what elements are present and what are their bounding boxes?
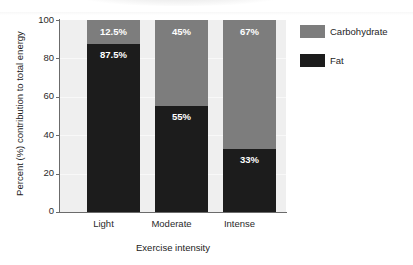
legend-swatch-carbohydrate — [300, 25, 325, 38]
bar-intense-segment-fat: 33% — [223, 149, 276, 212]
bar-light-segment-carbohydrate: 12.5% — [87, 20, 140, 44]
bar-intense: 33% 67% — [223, 20, 276, 212]
scan-shadow-artifact — [55, 0, 305, 6]
y-tick-label-60: 60 — [14, 91, 54, 101]
y-tick-label-20: 20 — [14, 168, 54, 178]
bar-light-carb-label: 12.5% — [87, 26, 140, 37]
scan-line-artifact — [0, 12, 413, 15]
x-axis-title: Exercise intensity — [60, 242, 286, 253]
bar-light: 87.5% 12.5% — [87, 20, 140, 212]
bar-intense-fat-label: 33% — [223, 154, 276, 165]
bar-light-segment-fat: 87.5% — [87, 44, 140, 212]
bar-moderate-segment-fat: 55% — [155, 106, 208, 212]
bar-intense-segment-carbohydrate: 67% — [223, 20, 276, 149]
stacked-bar-chart-figure: Percent (%) contribution to total energy… — [0, 0, 413, 265]
plot-area: 87.5% 12.5% 55% 45% 33% 67% — [60, 20, 286, 212]
y-axis-title: Percent (%) contribution to total energy — [14, 18, 25, 210]
y-tick-label-100: 100 — [14, 15, 54, 25]
legend-item-carbohydrate: Carbohydrate — [300, 22, 388, 36]
bar-moderate: 55% 45% — [155, 20, 208, 212]
bar-moderate-fat-label: 55% — [155, 111, 208, 122]
x-axis-line — [59, 212, 287, 213]
legend-item-fat: Fat — [300, 51, 388, 65]
bar-light-fat-label: 87.5% — [87, 49, 140, 60]
y-tick-label-40: 40 — [14, 130, 54, 140]
bar-moderate-segment-carbohydrate: 45% — [155, 20, 208, 106]
x-tick-label-intense: Intense — [198, 218, 281, 229]
chart-legend: Carbohydrate Fat — [300, 22, 388, 80]
y-tick-label-80: 80 — [14, 53, 54, 63]
legend-label-fat: Fat — [330, 55, 344, 66]
bar-intense-carb-label: 67% — [223, 26, 276, 37]
y-tick-label-0: 0 — [14, 206, 54, 216]
legend-label-carbohydrate: Carbohydrate — [330, 26, 388, 37]
legend-swatch-fat — [300, 54, 325, 67]
bar-moderate-carb-label: 45% — [155, 26, 208, 37]
